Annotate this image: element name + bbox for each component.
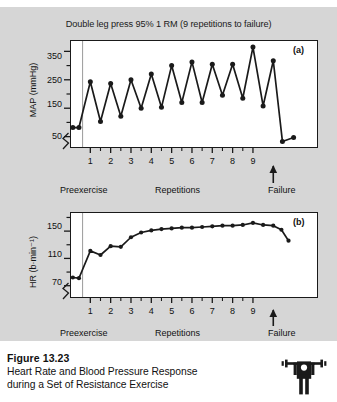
svg-text:6: 6 <box>189 306 194 316</box>
panel-a-data-layer: 123456789 <box>0 7 337 197</box>
svg-text:4: 4 <box>149 306 154 316</box>
panel-b-note-repetitions: Repetitions <box>155 328 200 338</box>
svg-text:3: 3 <box>128 156 133 166</box>
svg-text:6: 6 <box>189 156 194 166</box>
panel-b-letter: (b) <box>293 217 305 227</box>
caption-text-line-1: Heart Rate and Blood Pressure Response <box>7 365 257 378</box>
svg-text:9: 9 <box>250 156 255 166</box>
caption-text-line-2: during a Set of Resistance Exercise <box>7 378 257 391</box>
panel-a-map-chart: MAP (mmHg) 350 250 150 50 123456789 (a) … <box>0 7 337 197</box>
svg-text:8: 8 <box>230 156 235 166</box>
svg-text:7: 7 <box>210 306 215 316</box>
svg-text:2: 2 <box>108 306 113 316</box>
svg-text:3: 3 <box>128 306 133 316</box>
svg-text:4: 4 <box>149 156 154 166</box>
panel-a-note-repetitions: Repetitions <box>155 185 200 195</box>
svg-text:2: 2 <box>108 156 113 166</box>
svg-text:9: 9 <box>250 306 255 316</box>
figure-panel: Double leg press 95% 1 RM (9 repetitions… <box>0 7 337 341</box>
top-margin <box>0 0 337 7</box>
weightlifter-icon <box>280 355 328 397</box>
svg-text:5: 5 <box>169 306 174 316</box>
svg-text:1: 1 <box>88 156 93 166</box>
panel-a-note-failure: Failure <box>268 185 296 195</box>
svg-text:7: 7 <box>210 156 215 166</box>
svg-text:5: 5 <box>169 156 174 166</box>
svg-text:8: 8 <box>230 306 235 316</box>
panel-b-hr-chart: HR (b·min⁻¹) 150 110 70 123456789 (b) Pr… <box>0 197 337 341</box>
panel-b-data-layer: 123456789 <box>0 197 337 341</box>
svg-text:1: 1 <box>88 306 93 316</box>
panel-b-note-failure: Failure <box>268 328 296 338</box>
panel-a-letter: (a) <box>293 45 304 55</box>
caption-figure-number: Figure 13.23 <box>7 352 257 364</box>
panel-a-note-preexercise: Preexercise <box>60 185 108 195</box>
figure-caption: Figure 13.23 Heart Rate and Blood Pressu… <box>7 352 257 391</box>
panel-b-note-preexercise: Preexercise <box>60 328 108 338</box>
